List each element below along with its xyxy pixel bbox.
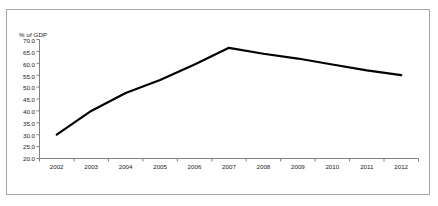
chart-frame: % of GDP 70.0 65.0 60.0 55.0 50.0 45.0 4… — [6, 9, 430, 195]
x-tick-label: 2002 — [42, 163, 72, 170]
x-tick-label: 2008 — [248, 163, 278, 170]
chart-screenshot: % of GDP 70.0 65.0 60.0 55.0 50.0 45.0 4… — [0, 0, 438, 206]
x-tick-label: 2011 — [352, 163, 382, 170]
x-tick-label: 2004 — [111, 163, 141, 170]
data-series-line — [57, 48, 402, 135]
x-tick-label: 2003 — [76, 163, 106, 170]
x-tick-label: 2012 — [386, 163, 416, 170]
x-tick-label: 2005 — [145, 163, 175, 170]
chart-plot-area: % of GDP 70.0 65.0 60.0 55.0 50.0 45.0 4… — [7, 10, 431, 196]
x-tick-label: 2007 — [214, 163, 244, 170]
x-tick-label: 2009 — [283, 163, 313, 170]
x-tick-label: 2010 — [317, 163, 347, 170]
x-tick-label: 2006 — [180, 163, 210, 170]
